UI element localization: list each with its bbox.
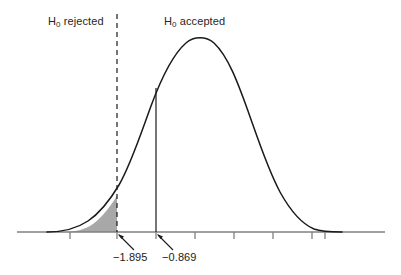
h0-accepted-label: H0 accepted (164, 15, 225, 27)
h0-rejected-label: H0 rejected (48, 15, 104, 27)
normal-distribution-curve (47, 38, 342, 232)
h0-rejected-text: rejected (61, 15, 104, 27)
critical-value-arrow (118, 234, 134, 250)
h0-accepted-symbol: H (164, 15, 172, 27)
test-statistic-arrow (157, 234, 173, 250)
x-axis-ticks (70, 232, 325, 239)
critical-value-label: −1.895 (113, 251, 148, 263)
h0-accepted-text: accepted (177, 15, 226, 27)
h0-accepted-subscript: 0 (172, 20, 177, 29)
hypothesis-test-distribution-chart (0, 0, 401, 275)
h0-rejected-subscript: 0 (56, 20, 61, 29)
test-statistic-label: −0.869 (162, 251, 197, 263)
h0-rejected-symbol: H (48, 15, 56, 27)
